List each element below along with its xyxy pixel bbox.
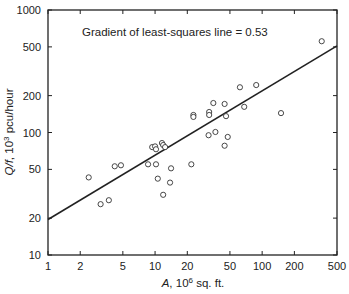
- data-point: [222, 143, 227, 148]
- x-tick-label: 5: [120, 260, 126, 272]
- data-point: [106, 198, 111, 203]
- data-point: [118, 163, 123, 168]
- x-tick-label: 500: [328, 260, 346, 272]
- y-axis-title: Q/f, 103 pcu/hour: [2, 88, 15, 175]
- data-point: [153, 147, 158, 152]
- x-tick-label: 20: [181, 260, 193, 272]
- data-point: [211, 100, 216, 105]
- data-point: [319, 39, 324, 44]
- data-point: [168, 166, 173, 171]
- x-tick-label: 2: [77, 260, 83, 272]
- y-tick-label: 20: [29, 212, 41, 224]
- y-tick-label: 500: [23, 41, 41, 53]
- data-points: [86, 39, 324, 207]
- gradient-annotation: Gradient of least-squares line = 0.53: [82, 26, 268, 38]
- data-point: [207, 112, 212, 117]
- data-point: [162, 145, 167, 150]
- data-point: [222, 101, 227, 106]
- data-point: [237, 85, 242, 90]
- y-tick-label: 50: [29, 163, 41, 175]
- x-tick-label: 50: [224, 260, 236, 272]
- data-point: [254, 82, 259, 87]
- data-point: [161, 192, 166, 197]
- data-point: [112, 164, 117, 169]
- data-point: [155, 176, 160, 181]
- data-point: [167, 180, 172, 185]
- x-tick-label: 1: [45, 260, 51, 272]
- data-point: [191, 114, 196, 119]
- data-point: [225, 134, 230, 139]
- axis-ticks: 1251020501002005001020501002005001000: [17, 4, 347, 272]
- data-point: [153, 162, 158, 167]
- data-point: [86, 175, 91, 180]
- data-point: [278, 111, 283, 116]
- x-tick-label: 200: [285, 260, 303, 272]
- data-point: [213, 129, 218, 134]
- data-point: [242, 104, 247, 109]
- y-tick-label: 10: [29, 249, 41, 261]
- data-point: [145, 162, 150, 167]
- x-tick-label: 100: [253, 260, 271, 272]
- x-axis-title: A, 106 sq. ft.: [161, 276, 225, 289]
- y-tick-label: 1000: [17, 4, 41, 16]
- data-point: [98, 202, 103, 207]
- data-point: [223, 114, 228, 119]
- scatter-chart: 1251020501002005001020501002005001000 Gr…: [0, 0, 349, 294]
- least-squares-line: [48, 46, 337, 220]
- x-tick-label: 10: [149, 260, 161, 272]
- y-tick-label: 100: [23, 127, 41, 139]
- data-point: [206, 133, 211, 138]
- y-tick-label: 200: [23, 90, 41, 102]
- data-point: [189, 162, 194, 167]
